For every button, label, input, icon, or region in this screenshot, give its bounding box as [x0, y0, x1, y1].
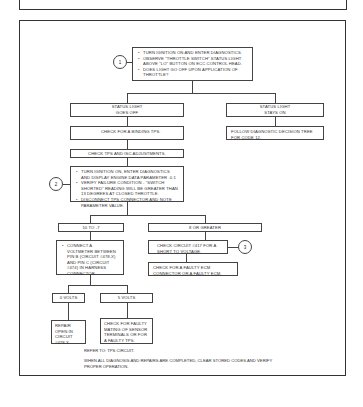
connector	[205, 232, 206, 240]
check-circuit-text: CHECK CIRCUIT #417 FOR A SHORT TO VOLTAG…	[157, 243, 216, 254]
step2-bullet-3: DISCONNECT TPS CONNECTOR AND NOTE PARAME…	[81, 197, 179, 208]
repair-open-box: REPAIR OPEN IN CIRCUIT #478.X.	[51, 320, 86, 344]
connector	[186, 254, 187, 262]
status-off-line2: GOES OFF	[71, 110, 183, 116]
connector	[127, 140, 128, 149]
follow-tree-box: FOLLOW DIAGNOSTIC DECISION TREE FOR CODE…	[226, 126, 324, 140]
status-on-line2: STAYS ON	[227, 110, 323, 116]
connector	[68, 285, 127, 286]
five-volts-box: 5 VOLTS	[100, 293, 153, 303]
connect-voltmeter-box: CONNECT A VOLTMETER BETWEEN PIN B (CIRCU…	[56, 240, 124, 275]
check-binding-text: CHECK FOR A BINDING TPS.	[101, 129, 161, 134]
five-volts-text: 5 VOLTS	[101, 295, 152, 301]
connector	[90, 232, 91, 240]
connector	[228, 247, 238, 248]
zero-volts-text: 0 VOLTS	[53, 295, 84, 301]
follow-tree-text: FOLLOW DIAGNOSTIC DECISION TREE FOR CODE…	[231, 129, 313, 140]
range-low-box: 10 TO -7	[58, 223, 124, 232]
range-high-box: 8 OR GREATER	[148, 223, 262, 232]
connector	[127, 117, 128, 126]
status-stays-on-box: STATUS LIGHT STAYS ON	[226, 103, 324, 117]
connector	[68, 303, 69, 320]
connector	[127, 93, 128, 103]
refer-to-note: REFER TO: TPS CIRCUIT.	[84, 348, 134, 354]
step-marker-1: 1	[113, 55, 127, 69]
start-bullet-3: DOES LIGHT GO OFF UPON APPLICATION OF TH…	[143, 67, 248, 78]
connector	[192, 81, 193, 93]
connector	[90, 215, 91, 223]
connector	[127, 285, 128, 293]
top-frame	[19, 0, 347, 10]
connector	[127, 93, 275, 94]
connector	[90, 275, 91, 285]
step-marker-3: 3	[238, 240, 252, 254]
connector	[205, 215, 206, 223]
step2-bullet-2: VERIFY FAILURE CONDITION - "SWITCH SHORT…	[81, 180, 179, 197]
step2-bullet-1: TURN IGNITION ON, ENTER DIAGNOSTICS AND …	[81, 169, 179, 180]
step2-box: TURN IGNITION ON, ENTER DIAGNOSTICS AND …	[70, 166, 184, 202]
start-box: TURN IGNITION ON AND ENTER DIAGNOSTICS. …	[132, 47, 253, 81]
check-mating-text: CHECK FOR FAULTY MATING OF SENSOR TERMIN…	[104, 321, 147, 343]
start-bullet-2: OBSERVE "THROTTLE SWITCH" STATUS LIGHT A…	[143, 56, 248, 67]
step-marker-2: 2	[49, 177, 63, 191]
check-ecm-box: CHECK FOR A FAULTY ECM CONNECTOR OR A FA…	[148, 262, 238, 276]
check-binding-box: CHECK FOR A BINDING TPS.	[70, 126, 184, 140]
final-note: WHEN ALL DIAGNOSIS AND REPAIRS ARE COMPL…	[84, 358, 284, 370]
check-circuit-box: CHECK CIRCUIT #417 FOR A SHORT TO VOLTAG…	[148, 240, 228, 254]
connector	[90, 215, 205, 216]
connector	[127, 202, 128, 215]
zero-volts-box: 0 VOLTS	[52, 293, 85, 303]
check-mating-box: CHECK FOR FAULTY MATING OF SENSOR TERMIN…	[100, 318, 153, 344]
connector	[275, 117, 276, 126]
check-tps-isc-box: CHECK TPS AND ISC ADJUSTMENTS.	[70, 149, 184, 158]
check-ecm-text: CHECK FOR A FAULTY ECM CONNECTOR OR A FA…	[153, 265, 222, 276]
connector	[127, 158, 128, 166]
connector	[68, 285, 69, 293]
voltmeter-bullet: CONNECT A VOLTMETER BETWEEN PIN B (CIRCU…	[67, 243, 119, 277]
check-tps-isc-text: CHECK TPS AND ISC ADJUSTMENTS.	[71, 151, 183, 157]
connector	[275, 93, 276, 103]
connector	[63, 184, 70, 185]
repair-open-text: REPAIR OPEN IN CIRCUIT #478.X.	[55, 323, 73, 345]
range-high-text: 8 OR GREATER	[149, 225, 261, 231]
status-goes-off-box: STATUS LIGHT GOES OFF	[70, 103, 184, 117]
range-low-text: 10 TO -7	[59, 225, 123, 231]
